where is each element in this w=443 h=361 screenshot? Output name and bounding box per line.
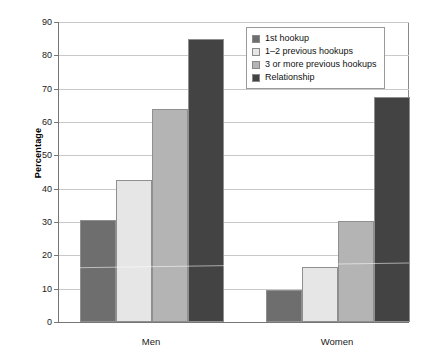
bar [80,220,116,322]
legend-swatch-icon [252,74,260,82]
legend-swatch-icon [252,35,260,43]
y-axis-tick [54,22,59,23]
y-axis-tick [54,122,59,123]
y-axis-tick-label: 80 [12,51,52,60]
legend-swatch-icon [252,61,260,69]
gridline [59,155,409,156]
legend-item-label: 1st hookup [265,34,309,43]
legend-item-label: Relationship [265,73,315,82]
legend-swatch-icon [252,48,260,56]
y-axis-tick-label: 70 [12,85,52,94]
legend-item: 3 or more previous hookups [252,58,377,71]
y-axis-tick [54,155,59,156]
legend-item-label: 1–2 previous hookups [265,47,353,56]
y-axis-tick-label: 20 [12,251,52,260]
chart-legend: 1st hookup1–2 previous hookups3 or more … [246,27,385,89]
y-axis-tick-label: 40 [12,185,52,194]
y-axis-tick [54,189,59,190]
y-axis-tick [54,89,59,90]
y-axis-tick [54,322,59,323]
legend-item-label: 3 or more previous hookups [265,60,377,69]
gridline [59,122,409,123]
legend-item: 1–2 previous hookups [252,45,377,58]
bar [374,97,410,322]
y-axis-tick-label: 50 [12,151,52,160]
y-axis-tick-label: 10 [12,285,52,294]
y-axis-tick-label: 30 [12,218,52,227]
y-axis-tick [54,255,59,256]
bar-chart: Percentage 9080706050403020100 MenWomen … [0,0,443,361]
gridline [59,22,409,23]
bar [302,267,338,322]
bar [116,180,152,322]
legend-item: 1st hookup [252,32,377,45]
x-axis-group-label: Women [277,336,397,347]
legend-item: Relationship [252,71,377,84]
bar [338,221,374,322]
y-axis-tick-labels: 9080706050403020100 [8,22,52,322]
bar [266,290,302,322]
y-axis-tick [54,289,59,290]
y-axis-tick-label: 90 [12,18,52,27]
gridline [59,189,409,190]
y-axis-tick [54,222,59,223]
y-axis-tick [54,55,59,56]
y-axis-tick-label: 60 [12,118,52,127]
bar [152,109,188,322]
y-axis-tick-label: 0 [12,318,52,327]
bar [188,39,224,322]
x-axis-group-label: Men [91,336,211,347]
